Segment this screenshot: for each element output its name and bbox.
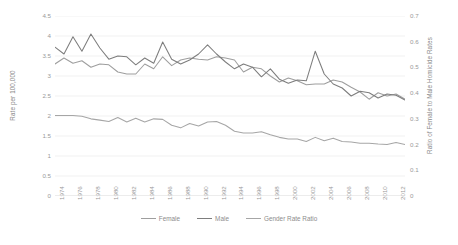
y-axis-left-tick: 1.5 bbox=[25, 132, 51, 139]
legend-label: Gender Rate Ratio bbox=[264, 215, 317, 222]
y-axis-left-tick: 0 bbox=[25, 192, 51, 199]
plot-area bbox=[55, 16, 405, 196]
y-axis-left-tick: 4 bbox=[25, 32, 51, 39]
y-axis-right-tick: 0.1 bbox=[410, 166, 436, 173]
plot-svg bbox=[55, 16, 405, 196]
legend-line-icon bbox=[141, 218, 156, 219]
legend-label: Female bbox=[159, 215, 180, 222]
legend-line-icon bbox=[246, 218, 261, 219]
y-axis-right-tick: 0.6 bbox=[410, 38, 436, 45]
legend-label: Male bbox=[215, 215, 229, 222]
y-axis-left-tick: 2 bbox=[25, 112, 51, 119]
y-axis-left-tick: 2.5 bbox=[25, 92, 51, 99]
y-axis-right-tick: 0.3 bbox=[410, 115, 436, 122]
y-axis-left-tick: 0.5 bbox=[25, 172, 51, 179]
y-axis-left-title: Rate per 100,000 bbox=[9, 53, 16, 139]
series-line-0 bbox=[55, 57, 405, 99]
y-axis-left-tick: 1 bbox=[25, 152, 51, 159]
legend-item[interactable]: Female bbox=[141, 215, 180, 222]
series-line-1 bbox=[55, 34, 405, 100]
y-axis-left-tick: 3.5 bbox=[25, 52, 51, 59]
y-axis-right-tick: 0 bbox=[410, 192, 436, 199]
y-axis-left-tick: 3 bbox=[25, 72, 51, 79]
chart-legend: FemaleMaleGender Rate Ratio bbox=[0, 215, 458, 222]
legend-line-icon bbox=[197, 218, 212, 219]
series-line-2 bbox=[55, 116, 405, 145]
y-axis-left-tick: 4.5 bbox=[25, 12, 51, 19]
y-axis-right-tick: 0.2 bbox=[410, 141, 436, 148]
y-axis-right-tick: 0.7 bbox=[410, 12, 436, 19]
y-axis-right-tick: 0.5 bbox=[410, 63, 436, 70]
legend-item[interactable]: Male bbox=[197, 215, 229, 222]
homicide-rate-line-chart: Rate per 100,000 Ratio of Female to Male… bbox=[0, 0, 458, 245]
legend-item[interactable]: Gender Rate Ratio bbox=[246, 215, 317, 222]
y-axis-right-tick: 0.4 bbox=[410, 89, 436, 96]
